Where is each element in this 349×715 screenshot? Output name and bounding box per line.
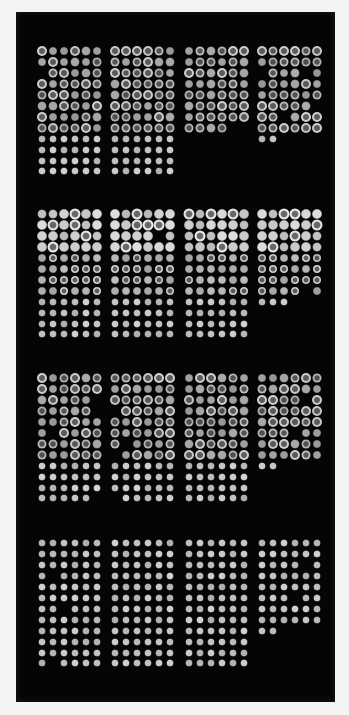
array-spot [279,123,289,133]
array-spot [195,230,206,241]
array-spot [208,473,215,480]
array-spot [229,254,237,262]
array-spot [112,583,119,590]
array-spot [144,429,152,437]
array-spot [134,309,141,316]
array-spot [145,309,152,316]
array-spot [122,451,130,459]
array-spot [38,287,46,295]
array-spot [72,168,79,175]
array-spot [38,429,46,437]
array-spot [71,79,80,88]
array-spot [60,265,68,273]
array-spot [186,594,193,601]
array-spot [92,384,102,394]
array-spot [167,157,174,164]
array-spot [165,406,175,416]
array-spot [270,135,277,142]
array-spot [269,90,278,99]
array-spot [70,373,80,383]
array-spot [93,47,101,55]
array-spot [218,254,226,262]
array-spot [281,605,288,612]
array-spot [302,276,310,284]
array-spot [240,276,248,284]
array-spot [94,572,101,579]
array-spot [143,57,153,67]
array-spot [230,331,237,338]
array-spot [291,68,300,77]
array-spot [269,112,278,121]
array-spot [281,572,288,579]
array-spot [61,561,68,568]
array-spot [268,406,278,416]
array-spot [92,220,102,230]
array-spot [186,540,193,547]
array-spot [155,417,164,426]
array-spot [230,638,237,645]
array-spot [72,627,79,634]
array-spot [48,231,58,241]
array-spot [207,428,216,437]
array-spot [156,660,163,667]
array-spot [280,101,289,110]
array-spot [50,550,57,557]
array-spot [110,68,120,78]
array-spot [167,462,174,469]
array-spot [50,331,57,338]
array-spot [70,46,80,56]
array-spot [240,80,248,88]
array-spot [218,374,227,383]
array-spot [269,276,277,284]
array-spot [60,79,69,88]
array-spot [196,101,205,110]
array-spot [208,616,215,623]
array-spot [134,660,141,667]
array-spot [49,385,57,393]
array-spot [166,69,174,77]
array-spot [144,418,152,426]
array-spot [240,265,248,273]
array-spot [156,298,163,305]
array-spot [217,220,227,230]
array-spot [166,287,174,295]
array-spot [81,242,91,252]
array-spot [71,69,79,77]
array-spot [93,254,101,262]
array-spot [219,320,226,327]
array-spot [59,220,69,230]
array-spot [134,157,141,164]
array-spot [39,583,46,590]
array-spot [143,373,153,383]
array-spot [134,540,141,547]
array-spot [291,374,300,383]
array-spot [270,605,277,612]
array-spot [60,231,69,240]
array-spot [110,209,120,219]
array-spot [60,374,69,383]
array-spot [186,331,193,338]
array-spot [145,638,152,645]
array-spot [39,495,46,502]
array-spot [94,561,101,568]
array-spot [196,210,205,219]
array-spot [197,484,204,491]
array-spot [93,287,101,295]
array-spot [50,561,57,568]
array-spot [121,79,131,89]
array-spot [112,540,119,547]
array-spot [143,242,153,252]
array-spot [94,320,101,327]
array-spot [155,287,163,295]
array-spot [72,660,79,667]
array-spot [72,594,79,601]
array-spot [122,123,131,132]
array-spot [61,540,68,547]
array-spot [290,220,300,230]
array-spot [133,101,142,110]
array-spot [258,123,267,132]
array-spot [241,462,248,469]
array-spot [186,660,193,667]
array-spot [228,46,238,56]
array-spot [292,605,299,612]
